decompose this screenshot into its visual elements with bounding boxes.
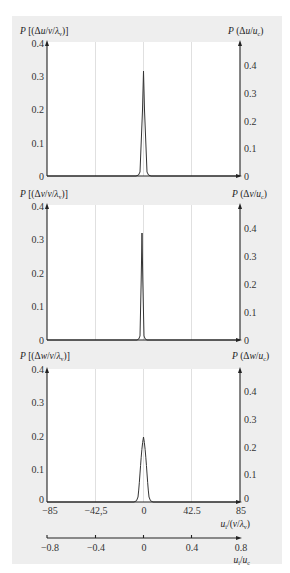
y-tick-label-right: 0.2 xyxy=(244,116,257,127)
y-tick-label: 0.2 xyxy=(32,431,45,442)
y-tick-label: 0.1 xyxy=(32,301,45,312)
x2-tick-label: 0 xyxy=(142,542,147,553)
y-tick-label: 0.3 xyxy=(32,397,45,408)
y-tick-label-right: 0.1 xyxy=(244,143,257,154)
x2-tick-label: −0.8 xyxy=(41,542,59,553)
y-tick-label: 0.2 xyxy=(32,104,45,115)
y-tick-label-right: 0.3 xyxy=(244,414,257,425)
y-tick-label: 0.3 xyxy=(32,234,45,245)
x-tick-label: 85 xyxy=(236,505,246,516)
x-tick-label: 42.5 xyxy=(183,505,201,516)
x-tick-label: 0 xyxy=(142,505,147,516)
y-tick-label-right: 0.1 xyxy=(244,307,257,318)
y-tick-label: 0.4 xyxy=(32,364,45,375)
y-tick-label: 0.1 xyxy=(32,138,45,149)
y-tick-label: 0.4 xyxy=(32,38,45,49)
y-tick-label: 0.4 xyxy=(32,201,45,212)
y-tick-label-right: 0.2 xyxy=(244,442,257,453)
panel-v: P [(Δv/v/λv)] P (Δv/uc) 0.4 0.3 0.2 0.1 … xyxy=(19,189,267,346)
y-tick-label: 0.2 xyxy=(32,268,45,279)
x-tick-label: −42,5 xyxy=(84,505,107,516)
y-tick-label: 0.1 xyxy=(32,464,45,475)
y-tick-label: 0 xyxy=(39,171,44,182)
panel-u: P [(Δu/v/λv)] P (Δu/uc) 0.4 0.3 0.2 0.1 … xyxy=(19,26,263,182)
y-tick-label-right: 0.1 xyxy=(244,469,257,480)
x2-tick-label: −0.4 xyxy=(87,542,105,553)
y-tick-label-right: 0 xyxy=(244,171,249,182)
y-tick-label: 0 xyxy=(39,335,44,346)
y-tick-label: 0 xyxy=(39,494,44,505)
figure: P [(Δu/v/λv)] P (Δu/uc) 0.4 0.3 0.2 0.1 … xyxy=(0,0,290,573)
y-tick-label-right: 0.3 xyxy=(244,88,257,99)
y-tick-label-right: 0 xyxy=(244,335,249,346)
x2-tick-label: 0.8 xyxy=(235,542,248,553)
y-tick-label-right: 0.4 xyxy=(244,60,257,71)
y-tick-label-right: 0 xyxy=(244,493,249,504)
y-tick-label-right: 0.2 xyxy=(244,279,257,290)
x2-tick-label: 0.4 xyxy=(186,542,199,553)
x-tick-label: −85 xyxy=(42,505,58,516)
y-tick-label-right: 0.4 xyxy=(244,223,257,234)
y-tick-label-right: 0.3 xyxy=(244,251,257,262)
y-tick-label-right: 0.4 xyxy=(244,386,257,397)
y-tick-label: 0.3 xyxy=(32,71,45,82)
